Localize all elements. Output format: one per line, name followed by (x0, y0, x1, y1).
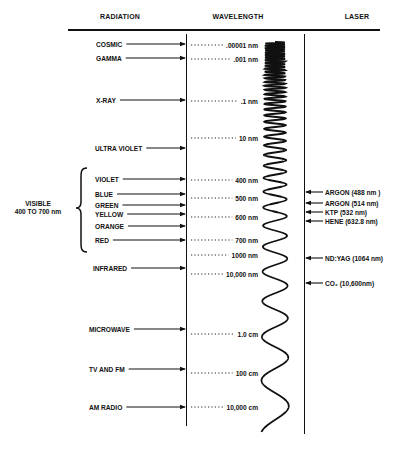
wavelength-item: 10,000 cm (226, 404, 258, 411)
radiation-item: MICROWAVE (89, 326, 130, 333)
radiation-item: ORANGE (95, 223, 124, 230)
visible-brace-icon (76, 168, 87, 252)
radiation-item: ULTRA VIOLET (95, 145, 142, 152)
laser-item: KTP (532 nm) (325, 209, 367, 216)
laser-item: ND:YAG (1064 nm) (325, 255, 383, 262)
wavelength-item: 500 nm (235, 195, 258, 202)
radiation-item: RED (95, 237, 109, 244)
laser-item: CO₂ (10,600nm) (325, 280, 374, 287)
laser-arrows (306, 192, 323, 283)
laser-item: HENE (632.8 nm) (325, 218, 378, 225)
wavelength-item: .1 nm (241, 98, 258, 105)
radiation-item: YELLOW (95, 211, 123, 218)
radiation-item: TV AND FM (89, 366, 125, 373)
radiation-item: INFRARED (93, 265, 127, 272)
wavelength-item: 1.0 cm (237, 331, 258, 338)
laser-item: ARGON (488 nm ) (325, 189, 380, 196)
wavelength-item: 10,000 nm (226, 271, 258, 278)
wavelength-leaders (191, 45, 238, 407)
radiation-item: BLUE (95, 191, 113, 198)
wavelength-item: 1000 nm (232, 252, 258, 259)
radiation-item: AM RADIO (89, 404, 122, 411)
wavelength-item: 100 cm (236, 370, 258, 377)
radiation-item: GREEN (95, 202, 118, 209)
radiation-item: X-RAY (96, 97, 116, 104)
electromagnetic-wave-icon (262, 42, 289, 432)
wavelength-item: .001 nm (233, 56, 258, 63)
spectrum-graphics (0, 0, 410, 450)
wavelength-item: 700 nm (235, 237, 258, 244)
wavelength-item: 400 nm (235, 177, 258, 184)
wavelength-item: 10 nm (239, 135, 258, 142)
radiation-item: VIOLET (95, 176, 119, 183)
laser-item: ARGON (514 nm) (325, 200, 379, 207)
wavelength-item: .00001 nm (226, 42, 258, 49)
radiation-item: COSMIC (96, 41, 122, 48)
wavelength-item: 600 nm (235, 214, 258, 221)
radiation-item: GAMMA (96, 55, 122, 62)
